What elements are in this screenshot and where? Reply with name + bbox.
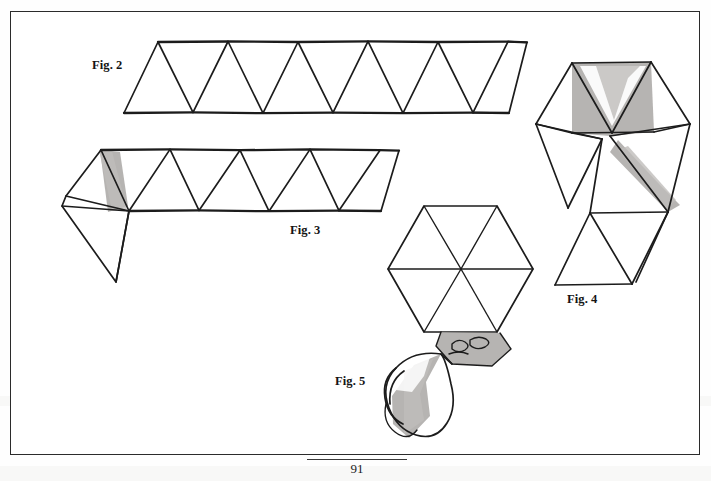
figure-label-fig4: Fig. 4	[567, 292, 597, 307]
page-number: 91	[307, 461, 407, 477]
scanned-page: .ink { fill:none; stroke:#1c1c1c; stroke…	[0, 0, 711, 481]
top-cut-off-text	[0, 0, 711, 10]
footer-rule	[307, 459, 407, 460]
figure-label-fig5: Fig. 5	[335, 374, 365, 389]
figure-label-fig2: Fig. 2	[92, 58, 122, 73]
figure-label-fig3: Fig. 3	[290, 223, 320, 238]
